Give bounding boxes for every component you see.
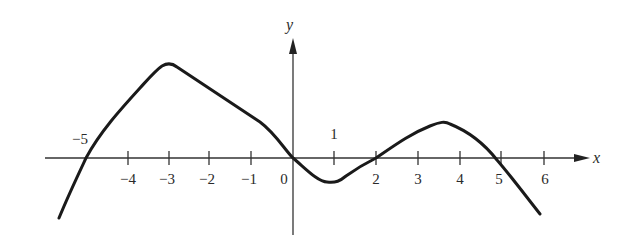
tick-label-4: 4 — [456, 171, 464, 187]
tick-label-1: 1 — [330, 126, 338, 142]
tick-label-neg5: −5 — [72, 131, 88, 147]
tick-label-zero: 0 — [280, 171, 288, 187]
tick-label-neg1: −1 — [241, 171, 257, 187]
tick-label-neg3: −3 — [159, 171, 175, 187]
y-axis-arrow-icon — [289, 38, 297, 54]
y-axis-label: y — [284, 16, 294, 34]
tick-label-6: 6 — [541, 171, 549, 187]
function-graph: −4 −3 −2 −1 0 1 2 3 4 5 6 −5 x y — [0, 0, 625, 249]
tick-label-neg2: −2 — [199, 171, 215, 187]
function-curve — [59, 64, 540, 218]
tick-label-3: 3 — [414, 171, 422, 187]
tick-label-5: 5 — [495, 171, 503, 187]
x-axis-arrow-icon — [574, 154, 590, 162]
x-axis-label: x — [592, 149, 600, 166]
tick-label-neg4: −4 — [120, 171, 136, 187]
tick-label-2: 2 — [372, 171, 380, 187]
